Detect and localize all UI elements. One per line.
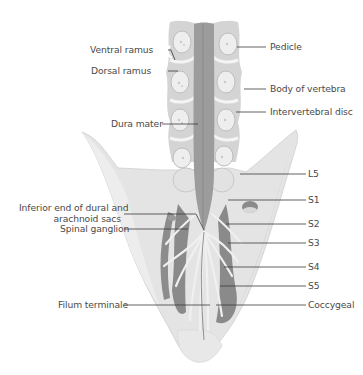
label-s5: S5	[308, 280, 319, 291]
label-s1: S1	[308, 194, 319, 205]
label-coccygeal: Coccygeal	[308, 299, 354, 310]
spine-illustration	[0, 0, 363, 375]
label-s3: S3	[308, 237, 319, 248]
label-l5: L5	[308, 168, 319, 179]
label-s2: S2	[308, 218, 319, 229]
label-body-of-vertebra: Body of vertebra	[270, 83, 346, 94]
label-s4: S4	[308, 261, 319, 272]
sacrum-shape	[82, 130, 298, 358]
label-ventral-ramus: Ventral ramus	[90, 44, 153, 55]
label-dura-mater: Dura mater	[111, 118, 163, 129]
spine-anatomy-figure: Ventral ramus Dorsal ramus Dura mater In…	[0, 0, 363, 375]
label-pedicle: Pedicle	[270, 41, 302, 52]
label-dorsal-ramus: Dorsal ramus	[91, 65, 151, 76]
label-inferior-end-of-dural-and-arachnoid-sacs: Inferior end of dural and arachnoid sacs	[19, 202, 121, 224]
label-spinal-ganglion: Spinal ganglion	[60, 223, 129, 234]
label-filum-terminale: Filum terminale	[58, 299, 128, 310]
label-intervertebral-disc: Intervertebral disc	[270, 106, 353, 117]
label-inferior-end-line1: Inferior end of dural and	[19, 202, 121, 213]
